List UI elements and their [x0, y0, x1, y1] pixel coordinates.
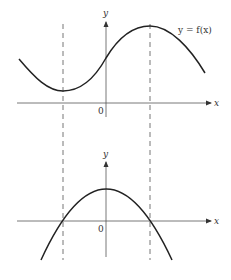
- top-y-label: y: [102, 8, 109, 18]
- top-x-label: x: [214, 98, 219, 108]
- bottom-x-label: x: [214, 216, 219, 226]
- bottom-curve-derivative: [41, 189, 172, 260]
- bottom-origin-label: 0: [98, 224, 104, 234]
- top-curve-f: [19, 26, 205, 91]
- function-label: y = f(x): [177, 25, 212, 35]
- figure-canvas: y x 0 y = f(x) y x 0: [0, 0, 231, 280]
- top-graph: y x 0 y = f(x): [17, 8, 219, 117]
- top-origin-label: 0: [98, 106, 104, 116]
- bottom-y-label: y: [102, 149, 109, 159]
- bottom-graph: y x 0: [17, 149, 219, 260]
